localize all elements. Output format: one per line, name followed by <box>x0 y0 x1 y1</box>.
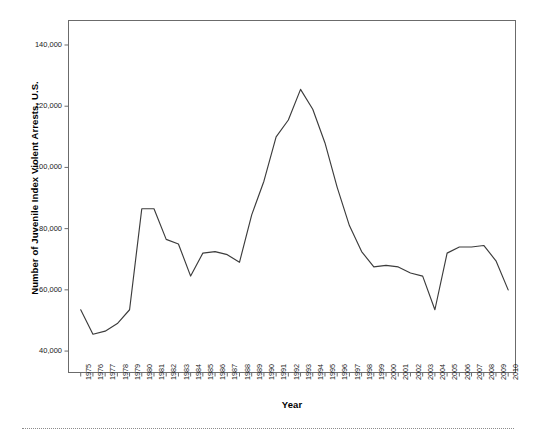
x-tick-label: 1978 <box>121 364 130 380</box>
x-tick-label: 1993 <box>304 364 313 380</box>
x-tick-label: 1976 <box>96 364 105 380</box>
x-tick-label: 1996 <box>340 364 349 380</box>
x-tick-label: 1989 <box>255 364 264 380</box>
x-tick-label: 2008 <box>487 364 496 380</box>
x-tick-label: 2003 <box>426 364 435 380</box>
x-tick-label: 1979 <box>133 364 142 380</box>
x-axis-title: Year <box>68 399 516 410</box>
x-tick-label: 2009 <box>499 364 508 380</box>
x-tick-label: 2004 <box>438 364 447 380</box>
x-tick-label: 2005 <box>450 364 459 380</box>
x-tick-label: 1998 <box>365 364 374 380</box>
y-axis-ticks <box>65 45 69 351</box>
x-tick-label: 2007 <box>475 364 484 380</box>
y-axis-title: Number of Juvenile Index Violent Arrests… <box>24 2 46 374</box>
x-tick-label: 2002 <box>414 364 423 380</box>
x-tick-label: 1995 <box>328 364 337 380</box>
x-tick-label: 1982 <box>169 364 178 380</box>
x-tick-label: 1986 <box>218 364 227 380</box>
x-tick-label: 1990 <box>267 364 276 380</box>
x-tick-label: 1984 <box>194 364 203 380</box>
x-tick-label: 2010 <box>511 364 520 380</box>
x-tick-label: 1988 <box>243 364 252 380</box>
x-tick-label: 1999 <box>377 364 386 380</box>
x-tick-label: 1985 <box>206 364 215 380</box>
x-tick-label: 1980 <box>145 364 154 380</box>
footer-divider <box>22 428 514 429</box>
x-tick-label: 1997 <box>353 364 362 380</box>
x-tick-label: 2006 <box>463 364 472 380</box>
x-tick-label: 1975 <box>84 364 93 380</box>
chart-figure: 40,00060,00080,000100,000120,000140,000 … <box>0 0 536 438</box>
x-tick-label: 1987 <box>230 364 239 380</box>
x-tick-label: 1983 <box>182 364 191 380</box>
x-tick-label: 2000 <box>389 364 398 380</box>
plot-frame <box>69 21 516 373</box>
x-tick-label: 2001 <box>401 364 410 380</box>
x-tick-label: 1977 <box>108 364 117 380</box>
x-tick-label: 1992 <box>292 364 301 380</box>
x-tick-label: 1991 <box>279 364 288 380</box>
x-tick-label: 1994 <box>316 364 325 380</box>
x-tick-label: 1981 <box>157 364 166 380</box>
plot-area-border <box>69 21 516 373</box>
